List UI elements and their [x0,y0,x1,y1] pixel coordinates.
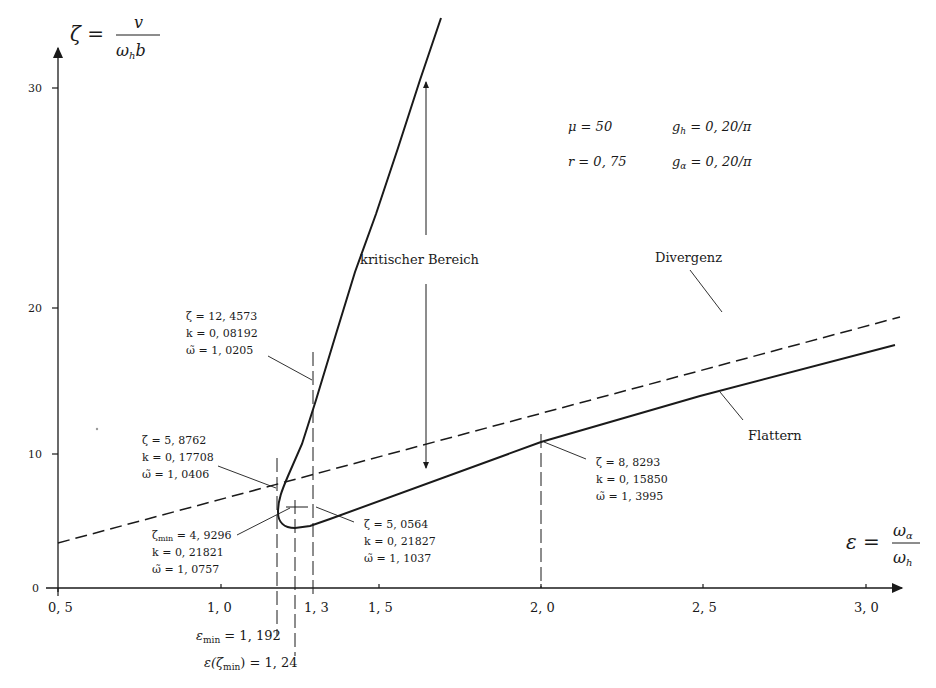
svg-text:ω̃ = 1, 3995: ω̃ = 1, 3995 [596,490,663,503]
param-gh: gh = 0, 20/π [672,119,752,136]
x-tick-2-0: 2, 0 [530,600,555,615]
x-tick-1-3: 1, 3 [304,600,329,615]
y-tick-20: 20 [28,302,42,315]
svg-text:ω̃ = 1, 0406: ω̃ = 1, 0406 [142,468,209,481]
annotation-point-1: ζ = 12, 4573 k = 0, 08192 ω̃ = 1, 0205 [186,310,312,380]
svg-text:ζ =: ζ = [70,22,104,46]
annotation-point-3: ζmin = 4, 9296 k = 0, 21821 ω̃ = 1, 0757 [152,508,290,576]
svg-text:v: v [134,13,143,32]
svg-text:ζmin = 4, 9296: ζmin = 4, 9296 [152,529,231,543]
x-tick-1-5: 1, 5 [368,600,393,615]
y-tick-0: 0 [32,582,39,595]
epsilon-zeta-min-label: ε(ζmin) = 1, 24 [204,655,298,672]
svg-text:ζ = 5, 8762: ζ = 5, 8762 [142,434,206,447]
x-tick-1-0: 1, 0 [207,600,232,615]
svg-text:ζ = 5, 0564: ζ = 5, 0564 [364,518,428,531]
svg-text:ωα: ωα [893,521,913,541]
x-axis [46,584,902,596]
flutter-label: Flattern [748,428,802,443]
annotation-point-4: ζ = 5, 0564 k = 0, 21827 ω̃ = 1, 1037 [316,507,436,565]
param-ga: gα = 0, 20/π [672,154,752,171]
svg-text:ω̃ = 1, 1037: ω̃ = 1, 1037 [364,552,431,565]
flutter-divergence-chart: 30 20 10 0 0, 5 1, 0 1, 3 1, 5 2, 0 2, 5… [0,0,936,688]
svg-text:k = 0, 15850: k = 0, 15850 [596,473,668,486]
svg-text:k = 0, 21827: k = 0, 21827 [364,535,436,548]
annotation-point-5: ζ = 8, 8293 k = 0, 15850 ω̃ = 1, 3995 [544,442,668,503]
param-mu: μ = 50 [568,119,612,134]
scan-speck [96,428,98,430]
x-tick-0-5: 0, 5 [48,600,73,615]
x-tick-3-0: 3, 0 [854,600,879,615]
svg-text:ζ = 8, 8293: ζ = 8, 8293 [596,456,660,469]
y-tick-10: 10 [28,448,42,461]
y-axis-label: ζ = v ωhb [70,13,160,61]
flutter-curve [278,18,895,528]
svg-text:ζ = 12, 4573: ζ = 12, 4573 [186,310,257,323]
y-tick-30: 30 [28,82,42,95]
param-r: r = 0, 75 [568,154,626,169]
y-axis [52,48,58,592]
annotation-point-2: ζ = 5, 8762 k = 0, 17708 ω̃ = 1, 0406 [142,434,276,488]
critical-region-label: kritischer Bereich [360,252,480,267]
svg-text:ε =: ε = [846,530,880,554]
svg-text:ωhb: ωhb [116,41,146,61]
critical-region-indicator: kritischer Bereich [360,82,480,468]
svg-text:ω̃ = 1, 0757: ω̃ = 1, 0757 [152,563,219,576]
svg-text:k = 0, 17708: k = 0, 17708 [142,451,214,464]
x-axis-label: ε = ωα ωh [846,521,920,568]
svg-text:k = 0, 08192: k = 0, 08192 [186,327,258,340]
svg-text:ω̃ = 1, 0205: ω̃ = 1, 0205 [186,344,253,357]
divergence-label: Divergenz [655,250,722,265]
svg-text:k = 0, 21821: k = 0, 21821 [152,546,224,559]
parameters-block: μ = 50 r = 0, 75 gh = 0, 20/π gα = 0, 20… [568,119,752,171]
x-tick-2-5: 2, 5 [692,600,717,615]
svg-text:ωh: ωh [893,548,913,568]
epsilon-min-label: εmin = 1, 192 [196,628,281,645]
